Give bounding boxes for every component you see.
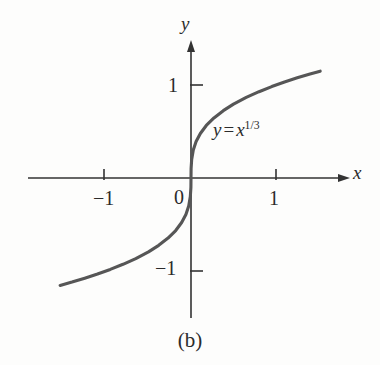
equation-operator: = — [221, 119, 236, 140]
x-tick-label-positive-one: 1 — [269, 188, 279, 208]
plot-canvas — [0, 0, 380, 365]
y-tick-label-positive-one: 1 — [168, 75, 178, 95]
x-axis-arrowhead — [338, 174, 350, 182]
equation-exponent: 1/3 — [245, 119, 260, 132]
x-tick-label-negative-one: −1 — [93, 188, 114, 208]
cube-root-function-figure: y x 1 −1 1 −1 0 y=x1/3 (b) — [0, 0, 380, 365]
origin-label: 0 — [174, 187, 184, 207]
equation-base: x — [236, 119, 244, 140]
curve-equation-label: y=x1/3 — [213, 120, 260, 139]
y-axis-label: y — [181, 14, 189, 33]
y-tick-label-negative-one: −1 — [155, 258, 176, 278]
figure-caption: (b) — [0, 328, 380, 353]
x-axis-label: x — [353, 163, 361, 182]
y-axis-arrowhead — [187, 40, 195, 52]
